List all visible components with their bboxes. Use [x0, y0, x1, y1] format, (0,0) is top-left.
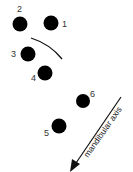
diagram-canvas: 1 2 3 4 5 6 mandibular axis — [0, 0, 133, 172]
point-6 — [76, 94, 90, 108]
axis-label: mandibular axis — [81, 105, 123, 160]
label-5: 5 — [44, 128, 49, 138]
point-1 — [44, 16, 59, 31]
label-1: 1 — [62, 19, 67, 29]
label-4: 4 — [31, 73, 36, 83]
point-5 — [52, 119, 67, 134]
label-3: 3 — [11, 49, 16, 59]
label-6: 6 — [90, 89, 95, 99]
arrowhead-icon — [70, 159, 80, 172]
label-2: 2 — [17, 4, 22, 14]
point-4 — [38, 66, 53, 81]
point-3 — [21, 47, 36, 62]
arc-curve — [31, 38, 62, 59]
point-2 — [13, 17, 28, 32]
